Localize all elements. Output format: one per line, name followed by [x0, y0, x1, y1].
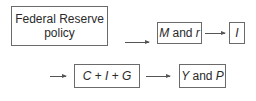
- output-and-prices-box: Y and P: [179, 64, 226, 88]
- price-level-symbol: P: [216, 69, 224, 83]
- output-symbol: Y: [181, 69, 189, 83]
- and-connector: and: [169, 26, 196, 40]
- money-symbol: M: [159, 26, 169, 40]
- policy-label: policy: [44, 26, 75, 40]
- federal-reserve-label: Federal Reserve: [15, 12, 104, 26]
- money-and-interest-box: M and r: [157, 22, 202, 44]
- plus-sign-1: +: [91, 69, 105, 83]
- aggregate-spending-box: C + I + G: [74, 64, 140, 88]
- investment-symbol: I: [235, 26, 238, 40]
- interest-rate-symbol: r: [196, 26, 200, 40]
- federal-reserve-policy-box: Federal Reserve policy: [11, 6, 108, 46]
- arrow-fed-to-mr: [125, 42, 149, 43]
- and-connector-2: and: [189, 69, 216, 83]
- arrow-investment-to-spending: [50, 76, 66, 77]
- arrow-mr-to-investment: [205, 33, 225, 34]
- consumption-symbol: C: [83, 69, 92, 83]
- arrow-spending-to-output: [146, 76, 170, 77]
- investment-box: I: [229, 22, 245, 44]
- plus-sign-2: +: [108, 69, 122, 83]
- government-symbol: G: [122, 69, 131, 83]
